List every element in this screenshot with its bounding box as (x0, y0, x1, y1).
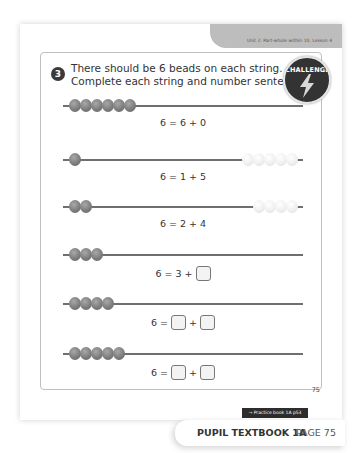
equals-sign: = (169, 218, 177, 229)
answer-box-a[interactable] (171, 365, 186, 380)
bead-string-row: 6=1+5 (63, 153, 303, 183)
light-bead (286, 200, 298, 213)
dark-bead (113, 347, 125, 360)
equals-sign: = (169, 117, 177, 128)
dark-beads (69, 200, 91, 214)
part-a-value: 2 (180, 218, 186, 229)
light-bead (286, 153, 298, 166)
bead-string-row: 6=2+4 (63, 200, 303, 230)
bead-string-row: 6=6+0 (63, 99, 303, 129)
bead-string-row: 6=+ (63, 347, 303, 377)
answer-box-b[interactable] (200, 315, 215, 330)
page-number: 75 (312, 386, 320, 394)
part-a-value: 1 (180, 171, 186, 182)
dark-bead (102, 297, 114, 310)
footer-book-title: PUPIL TEXTBOOK 1A (197, 427, 306, 438)
question-line-1: There should be 6 beads on each string. (71, 62, 311, 75)
unit-header-tab: Unit 2: Part-whole within 10, Lesson 4 (210, 24, 342, 48)
unit-label: Unit 2: Part-whole within 10, Lesson 4 (247, 38, 332, 43)
number-sentence: 6=3+ (63, 266, 303, 281)
badge-label: CHALLENGE (285, 66, 329, 74)
number-sentence: 6=6+0 (63, 117, 303, 128)
dark-beads (69, 153, 80, 167)
textbook-page: Unit 2: Part-whole within 10, Lesson 4 3… (20, 24, 342, 420)
practice-book-link[interactable]: → Practice book 1A p53 (242, 408, 308, 418)
dark-beads (69, 99, 135, 113)
plus-sign: + (185, 268, 193, 279)
dark-beads (69, 248, 102, 262)
part-b-value: 5 (200, 171, 206, 182)
lightning-icon (297, 74, 317, 98)
light-beads (253, 200, 297, 214)
total-value: 6 (151, 317, 157, 328)
plus-sign: + (189, 367, 197, 378)
dark-beads (69, 297, 113, 311)
dark-bead (124, 99, 136, 112)
total-value: 6 (160, 171, 166, 182)
bead-string-row: 6=+ (63, 297, 303, 327)
equals-sign: = (169, 171, 177, 182)
bead-string-row: 6=3+ (63, 248, 303, 278)
plus-sign: + (189, 171, 197, 182)
question-box: 3 There should be 6 beads on each string… (40, 52, 322, 390)
dark-bead (91, 248, 103, 261)
dark-bead (80, 200, 92, 213)
question-text: There should be 6 beads on each string. … (71, 62, 311, 88)
number-sentence: 6=1+5 (63, 171, 303, 182)
footer-page: PAGE 75 (296, 427, 336, 438)
plus-sign: + (189, 117, 197, 128)
footer-label: PUPIL TEXTBOOK 1A PAGE 75 (175, 420, 345, 446)
dark-beads (69, 347, 124, 361)
dark-bead (69, 153, 81, 166)
plus-sign: + (189, 218, 197, 229)
plus-sign: + (189, 317, 197, 328)
number-sentence: 6=2+4 (63, 218, 303, 229)
total-value: 6 (151, 367, 157, 378)
light-beads (242, 153, 297, 167)
question-number: 3 (51, 67, 65, 81)
equals-sign: = (160, 367, 168, 378)
total-value: 6 (160, 218, 166, 229)
part-a-value: 6 (180, 117, 186, 128)
part-b-value: 0 (200, 117, 206, 128)
equals-sign: = (165, 268, 173, 279)
number-sentence: 6=+ (63, 365, 303, 380)
total-value: 6 (155, 268, 161, 279)
answer-box-b[interactable] (196, 266, 211, 281)
answer-box-a[interactable] (171, 315, 186, 330)
total-value: 6 (160, 117, 166, 128)
question-line-2: Complete each string and number sentence… (71, 75, 311, 88)
answer-box-b[interactable] (200, 365, 215, 380)
challenge-badge-icon: CHALLENGE (283, 56, 331, 104)
part-a-value: 3 (176, 268, 182, 279)
number-sentence: 6=+ (63, 315, 303, 330)
part-b-value: 4 (200, 218, 206, 229)
equals-sign: = (160, 317, 168, 328)
